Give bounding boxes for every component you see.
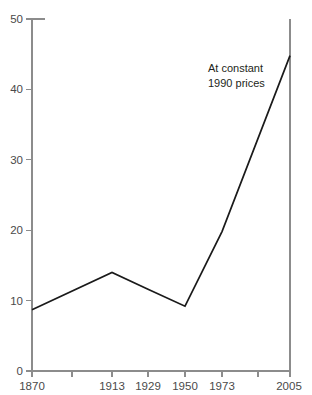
y-tick-label-10: 10 (10, 295, 23, 307)
x-tick-label-1950: 1950 (172, 380, 198, 392)
y-tick-label-20: 20 (10, 224, 23, 236)
annotation-line-1: At constant (208, 62, 263, 74)
y-tick-label-50: 50 (10, 13, 23, 25)
x-tick-label-1929: 1929 (135, 380, 161, 392)
line-chart: 0 10 20 30 40 50 1870 1913 1929 1950 197… (0, 0, 312, 395)
x-tick-label-1973: 1973 (209, 380, 235, 392)
y-tick-label-0: 0 (17, 365, 23, 377)
x-tick-label-2005: 2005 (276, 380, 302, 392)
annotation-line-2: 1990 prices (208, 77, 265, 89)
y-tick-label-30: 30 (10, 154, 23, 166)
y-tick-label-40: 40 (10, 83, 23, 95)
x-tick-label-1870: 1870 (19, 380, 45, 392)
chart-background (0, 0, 312, 395)
chart-figure: 0 10 20 30 40 50 1870 1913 1929 1950 197… (0, 0, 312, 395)
x-tick-label-1913: 1913 (99, 380, 125, 392)
